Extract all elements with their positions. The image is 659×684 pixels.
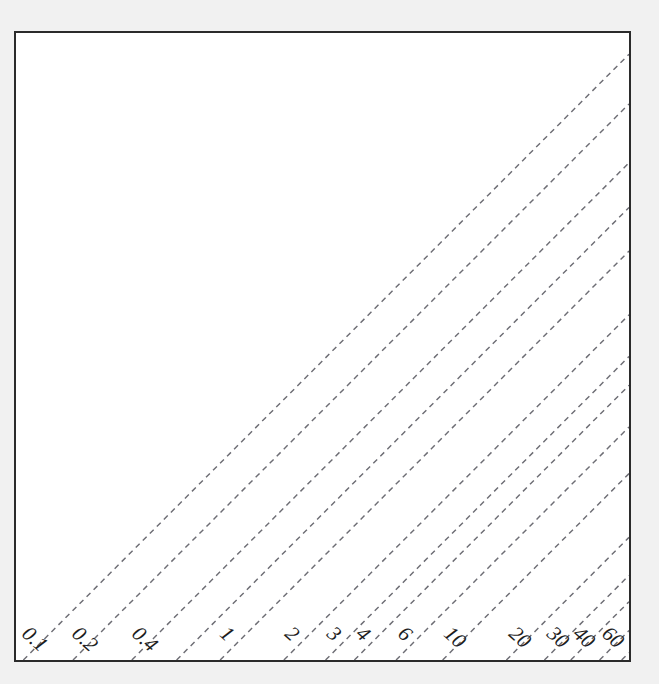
contour-line [600, 631, 629, 660]
contour-line [443, 474, 629, 660]
contour-line [23, 54, 629, 660]
plot-area: 0.10.20.4123461020304060 [14, 31, 631, 662]
contour-line [177, 208, 629, 660]
contour-line [544, 575, 629, 660]
contour-lines-group [16, 33, 629, 660]
contour-line [396, 427, 629, 660]
chart-figure: 0.10.20.4123461020304060 [0, 0, 659, 684]
contour-line [571, 602, 629, 660]
contour-line [284, 315, 629, 660]
contour-line [506, 537, 629, 660]
contour-line [220, 251, 629, 660]
contour-line [132, 163, 629, 660]
contour-line [354, 385, 629, 660]
contour-line [622, 653, 629, 660]
contour-line [73, 104, 629, 660]
